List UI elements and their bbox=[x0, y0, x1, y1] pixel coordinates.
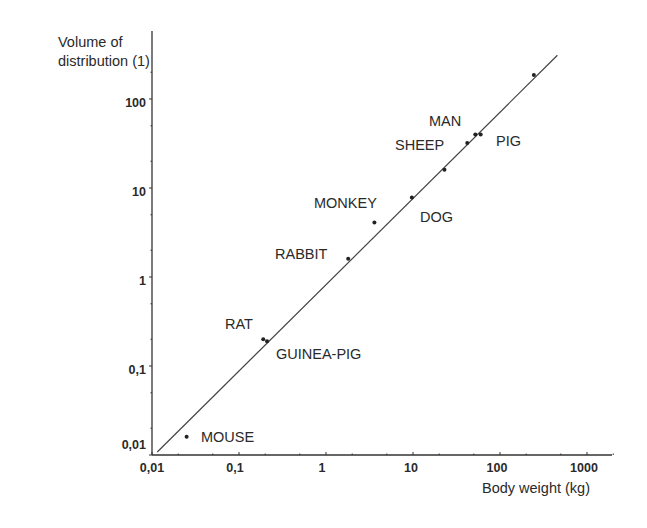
data-point bbox=[265, 339, 269, 343]
y-tick-label-100: 100 bbox=[96, 96, 146, 110]
data-point bbox=[185, 435, 189, 439]
data-point bbox=[346, 257, 350, 261]
x-tick-label-1: 1 bbox=[297, 461, 347, 475]
y-tick-label-10: 10 bbox=[96, 185, 146, 199]
point-label-monkey: MONKEY bbox=[314, 195, 377, 211]
data-point bbox=[442, 168, 446, 172]
x-tick-label-0-01: 0,01 bbox=[127, 461, 177, 475]
y-axis-label: Volume of distribution (1) bbox=[58, 33, 150, 71]
data-point bbox=[479, 132, 483, 136]
point-label-rabbit: RABBIT bbox=[275, 246, 327, 262]
point-label-mouse: MOUSE bbox=[201, 429, 254, 445]
point-label-dog: DOG bbox=[420, 209, 453, 225]
regression-line bbox=[157, 55, 557, 452]
x-tick-label-10: 10 bbox=[386, 461, 436, 475]
y-tick-label-0-1: 0,1 bbox=[96, 363, 146, 377]
point-label-pig: PIG bbox=[496, 133, 521, 149]
data-point bbox=[372, 220, 376, 224]
point-label-rat: RAT bbox=[225, 316, 253, 332]
y-tick-label-0-01: 0,01 bbox=[96, 438, 146, 452]
data-point bbox=[465, 141, 469, 145]
data-point bbox=[473, 132, 477, 136]
x-tick-label-100: 100 bbox=[472, 461, 522, 475]
point-label-guinea-pig: GUINEA-PIG bbox=[276, 346, 361, 362]
x-tick-label-1000: 1000 bbox=[559, 461, 609, 475]
x-axis-label: Body weight (kg) bbox=[482, 480, 590, 496]
data-point bbox=[532, 73, 536, 77]
y-axis-label-line1: Volume of bbox=[58, 33, 150, 52]
data-point bbox=[410, 196, 414, 200]
point-label-sheep: SHEEP bbox=[395, 137, 444, 153]
y-tick-label-1: 1 bbox=[96, 274, 146, 288]
x-tick-label-0-1: 0,1 bbox=[210, 461, 260, 475]
y-axis-label-line2: distribution (1) bbox=[58, 52, 150, 71]
data-point bbox=[261, 337, 265, 341]
point-label-man: MAN bbox=[429, 113, 461, 129]
data-points bbox=[185, 73, 536, 439]
